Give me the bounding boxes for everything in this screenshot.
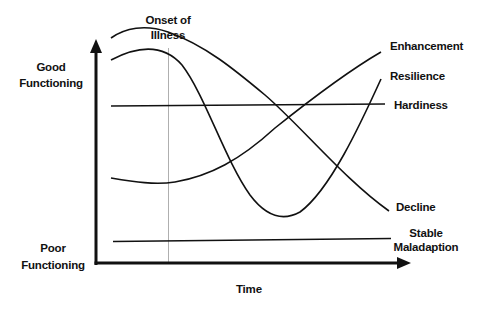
time-axis-label: Time bbox=[236, 282, 262, 296]
resilience-label: Resilience bbox=[390, 69, 445, 83]
onset-label-line1: Onset of bbox=[143, 13, 193, 27]
hardiness-line bbox=[111, 104, 385, 106]
stable-label-line1: Stable bbox=[390, 226, 462, 240]
enhancement-curve bbox=[111, 52, 381, 183]
onset-of-illness-label: Onset of Illness bbox=[143, 13, 193, 42]
x-axis-arrow-icon bbox=[397, 257, 411, 269]
enhancement-label: Enhancement bbox=[390, 39, 463, 53]
y-axis-arrow-icon bbox=[90, 39, 102, 53]
good-functioning-label: Good Functioning bbox=[18, 60, 84, 90]
poor-functioning-label: Poor Functioning bbox=[20, 241, 86, 272]
stable-maladaption-label: Stable Maladaption bbox=[390, 226, 462, 254]
decline-label: Decline bbox=[396, 200, 436, 214]
poor-label-line1: Poor bbox=[20, 241, 86, 255]
good-label-line2: Functioning bbox=[18, 76, 84, 90]
good-label-line1: Good bbox=[18, 60, 84, 74]
onset-label-line2: Illness bbox=[143, 28, 193, 42]
hardiness-label: Hardiness bbox=[394, 98, 448, 112]
stable-label-line2: Maladaption bbox=[390, 240, 462, 254]
stable-maladaption-line bbox=[113, 239, 391, 242]
resilience-curve bbox=[111, 49, 381, 216]
poor-label-line2: Functioning bbox=[20, 258, 86, 272]
